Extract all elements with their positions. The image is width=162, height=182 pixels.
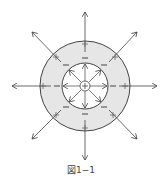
diagram [0, 0, 162, 182]
figure-caption: 図1−1 [0, 163, 162, 176]
